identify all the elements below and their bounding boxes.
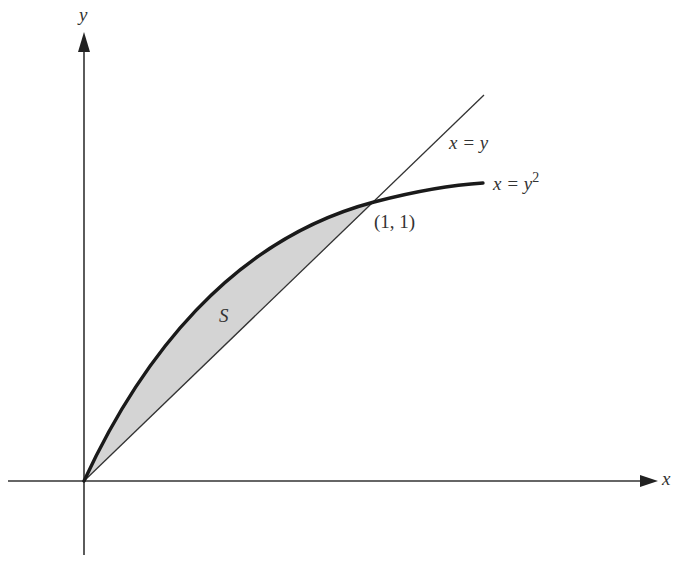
region-label: S — [219, 305, 229, 327]
line-label: x = y — [449, 132, 488, 154]
curve-label-exponent: 2 — [532, 170, 539, 185]
curve-label-base: x = y — [493, 173, 532, 194]
y-axis-arrow-icon — [78, 32, 90, 52]
x-axis-arrow-icon — [640, 475, 658, 487]
y-axis-label: y — [79, 4, 87, 26]
diagram-canvas — [0, 0, 677, 567]
x-axis-label: x — [662, 468, 670, 490]
intersection-label: (1, 1) — [374, 211, 415, 233]
line-x-equals-y — [84, 95, 484, 481]
curve-x-equals-y-squared — [84, 183, 483, 481]
curve-label: x = y2 — [493, 170, 539, 195]
